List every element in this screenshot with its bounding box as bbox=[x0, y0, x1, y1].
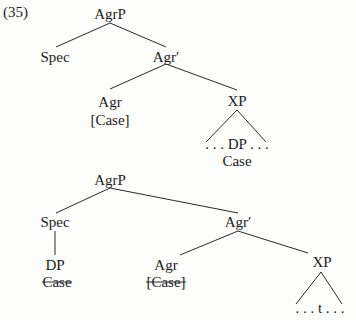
node-agr-bar: Agr′ bbox=[225, 214, 252, 230]
example-number: (35) bbox=[3, 4, 28, 21]
edge-agrbar-xp bbox=[238, 231, 308, 253]
edge-agrbar-agr bbox=[110, 64, 166, 89]
tree-2: AgrP Spec Agr′ DP Case Agr [Case] XP . .… bbox=[40, 172, 344, 316]
edge-agrp-agrbar bbox=[110, 23, 166, 47]
node-agrp: AgrP bbox=[94, 172, 126, 188]
node-dp-content: . . . DP . . . bbox=[205, 136, 269, 152]
syntax-tree-diagram: (35) AgrP Spec Agr′ Agr [Case] XP . . . … bbox=[0, 0, 356, 320]
node-spec: Spec bbox=[40, 49, 70, 65]
edge-agrp-spec bbox=[56, 188, 110, 213]
edge-agrbar-agr bbox=[180, 231, 238, 255]
node-agrp: AgrP bbox=[94, 6, 126, 22]
node-agr-feature: [Case] bbox=[90, 112, 129, 128]
node-spec: Spec bbox=[40, 214, 70, 230]
node-agr: Agr bbox=[154, 257, 177, 273]
edge-agrp-spec bbox=[56, 23, 110, 47]
node-xp: XP bbox=[227, 93, 246, 109]
edge-agrbar-xp bbox=[166, 64, 237, 90]
edge-agrp-agrbar bbox=[110, 188, 238, 213]
node-xp: XP bbox=[312, 254, 331, 270]
node-case-feature: Case bbox=[222, 153, 252, 169]
tree-1: AgrP Spec Agr′ Agr [Case] XP . . . DP . … bbox=[40, 6, 268, 169]
node-agr: Agr bbox=[98, 94, 121, 110]
node-dp: DP bbox=[45, 257, 64, 273]
node-agr-bar: Agr′ bbox=[153, 49, 180, 65]
node-trace-content: . . . t . . . bbox=[295, 300, 344, 316]
